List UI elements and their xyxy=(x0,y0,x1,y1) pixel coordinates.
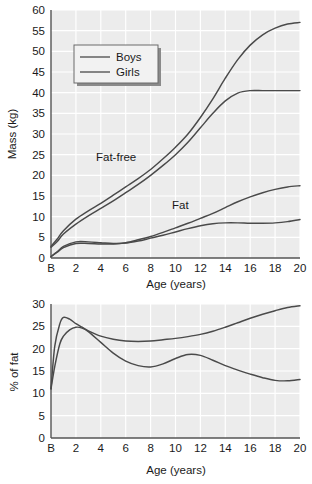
annotation-fat: Fat xyxy=(172,199,189,211)
x-tick-label: 8 xyxy=(147,442,153,454)
legend-label-girls: Girls xyxy=(116,66,140,78)
figure-container: 051015202530354045505560 B24681012141618… xyxy=(0,0,312,484)
y-tick-label: 45 xyxy=(32,66,45,78)
chart-panel-mass: 051015202530354045505560 B24681012141618… xyxy=(0,0,312,292)
x-tick-label: 16 xyxy=(244,442,257,454)
y-tick-label: 0 xyxy=(39,252,45,264)
legend: Boys Girls xyxy=(74,45,161,86)
x-tick-label: 16 xyxy=(244,262,257,274)
percent-fat-chart-svg: 051015202530 B2468101214161820 % of fat … xyxy=(0,292,312,484)
x-tick-label: B xyxy=(47,262,55,274)
y-tick-label: 20 xyxy=(32,343,45,355)
chart-panel-percent-fat: 051015202530 B2468101214161820 % of fat … xyxy=(0,292,312,484)
y-tick-label: 60 xyxy=(32,4,45,16)
y-tick-label: 30 xyxy=(32,128,45,140)
x-tick-labels: B2468101214161820 xyxy=(47,262,306,274)
x-tick-label: 12 xyxy=(194,442,207,454)
legend-label-boys: Boys xyxy=(116,51,142,63)
x-tick-label: 20 xyxy=(294,442,307,454)
y-tick-label: 35 xyxy=(32,107,45,119)
x-tick-label: 10 xyxy=(169,442,182,454)
y-tick-label: 0 xyxy=(39,432,45,444)
x-tick-label: 12 xyxy=(194,262,207,274)
x-tick-label: 8 xyxy=(147,262,153,274)
x-tick-label: 18 xyxy=(269,442,282,454)
x-tick-label: 2 xyxy=(73,262,79,274)
y-tick-label: 25 xyxy=(32,320,45,332)
x-tick-label: 20 xyxy=(294,262,307,274)
y-tick-label: 5 xyxy=(39,410,45,422)
y-tick-label: 30 xyxy=(32,298,45,310)
y-tick-label: 50 xyxy=(32,45,45,57)
x-tick-label: 6 xyxy=(122,442,128,454)
y-tick-label: 25 xyxy=(32,149,45,161)
x-axis-title: Age (years) xyxy=(146,278,206,290)
x-tick-label: 18 xyxy=(269,262,282,274)
y-axis-title: Mass (kg) xyxy=(6,109,18,160)
mass-chart-svg: 051015202530354045505560 B24681012141618… xyxy=(0,0,312,292)
y-tick-label: 10 xyxy=(32,387,45,399)
y-tick-label: 10 xyxy=(32,211,45,223)
x-tick-label: 4 xyxy=(98,262,105,274)
y-tick-label: 15 xyxy=(32,365,45,377)
y-tick-labels: 051015202530 xyxy=(32,298,45,444)
annotation-fat-free: Fat-free xyxy=(96,151,136,163)
y-tick-label: 5 xyxy=(39,231,45,243)
x-tick-label: 2 xyxy=(73,442,79,454)
x-tick-label: 4 xyxy=(98,442,105,454)
x-tick-labels: B2468101214161820 xyxy=(47,442,306,454)
y-axis-title: % of fat xyxy=(8,352,20,392)
y-tick-label: 40 xyxy=(32,87,45,99)
x-tick-label: B xyxy=(47,442,55,454)
x-tick-label: 10 xyxy=(169,262,182,274)
y-tick-labels: 051015202530354045505560 xyxy=(32,4,45,264)
x-axis-title: Age (years) xyxy=(146,464,206,476)
y-tick-label: 55 xyxy=(32,25,45,37)
y-tick-label: 20 xyxy=(32,169,45,181)
x-tick-label: 14 xyxy=(219,442,232,454)
y-tick-label: 15 xyxy=(32,190,45,202)
x-tick-label: 14 xyxy=(219,262,232,274)
x-tick-label: 6 xyxy=(122,262,128,274)
